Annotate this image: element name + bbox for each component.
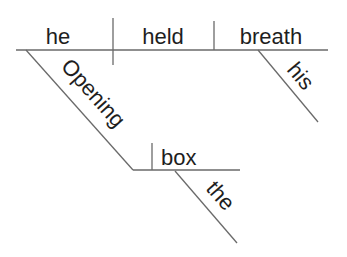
participle-object-word: box <box>161 145 196 170</box>
participle-word: Opening <box>56 54 130 133</box>
sentence-diagram: he held breath his Opening box the <box>0 0 347 257</box>
participle-object-modifier-word: the <box>201 176 240 215</box>
object-word: breath <box>240 24 302 49</box>
object-modifier-word: his <box>282 57 319 95</box>
subject-word: he <box>46 24 70 49</box>
verb-word: held <box>142 24 184 49</box>
